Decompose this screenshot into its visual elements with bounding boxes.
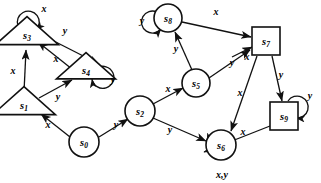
edge-label-e-s0-s1: x (45, 119, 51, 130)
edge-s7-s6 (231, 56, 257, 131)
edge-label-e-s5-s7: y (229, 57, 235, 68)
node-sub-s5: 5 (196, 82, 200, 91)
node-group (0, 4, 298, 160)
node-sub-s3: 3 (26, 34, 31, 43)
edge-label-e-s8-s7: x (213, 6, 219, 17)
node-sub-s6: 6 (221, 144, 225, 153)
edge-s1-s3 (24, 50, 26, 92)
edge-label-e-s2-s5: x (165, 83, 171, 94)
edge-label-e-s1-s3: x (10, 65, 16, 76)
edge-s2-s6 (153, 118, 206, 141)
edge-label-e-s2-s6: y (167, 124, 173, 135)
edge-label-e-s0-s2: y (113, 119, 119, 130)
edge-s8-s7 (182, 22, 251, 37)
self-loop-label-s3: x (41, 3, 47, 14)
node-sub-s8: 8 (168, 17, 172, 26)
node-sub-s7: 7 (266, 40, 270, 49)
edge-label-e-s7-s6: x (237, 87, 243, 98)
diagram-canvas: xyxyyxxyyyxyxxxxyyyx,y s0s1s2s3s4s5s6s7s… (0, 0, 321, 183)
self-loop-label-s9: y (307, 90, 313, 101)
self-loop-label-s4: y (110, 74, 116, 85)
node-sub-s4: 4 (85, 69, 90, 78)
state-transition-graph: xyxyyxxyyyxyxxxxyyyx,y s0s1s2s3s4s5s6s7s… (0, 0, 321, 183)
edge-label-e-s5-s8: y (173, 43, 179, 54)
self-loop-label-s6: x,y (215, 169, 229, 180)
node-sub-s2: 2 (139, 110, 144, 119)
edge-label-e-s6-s7: x (244, 51, 250, 62)
node-sub-s1: 1 (24, 104, 28, 113)
edge-label-e-s1-s4: y (55, 91, 61, 102)
node-sub-s0: 0 (84, 141, 88, 150)
edge-label-e-s9-s6: x (240, 126, 246, 137)
self-loop-label-s8: y (139, 15, 145, 26)
node-sub-s9: 9 (284, 115, 288, 124)
edge-label-e-s3-s4: y (62, 25, 68, 36)
edge-label-e-s4-s3: x (53, 53, 59, 64)
edge-label-e-s7-s9: y (278, 69, 284, 80)
